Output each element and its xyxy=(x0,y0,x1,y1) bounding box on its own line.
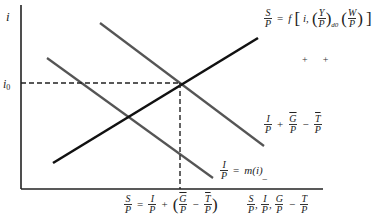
bracket-right: ] xyxy=(366,9,372,28)
num: Y xyxy=(318,8,326,18)
arg-i: i, xyxy=(303,12,309,24)
investment-sign: − xyxy=(262,174,268,185)
den: P xyxy=(247,204,255,215)
num: S xyxy=(265,8,272,18)
plus: + xyxy=(161,198,167,210)
minus: − xyxy=(303,118,309,130)
equals: = xyxy=(233,164,239,176)
den: P xyxy=(275,204,283,215)
num: S xyxy=(248,194,255,204)
num: I xyxy=(150,194,155,204)
den: P xyxy=(261,204,269,215)
y-axis-label: i xyxy=(6,10,10,23)
num: G xyxy=(288,114,297,124)
den: P xyxy=(348,18,356,29)
num: T xyxy=(204,194,212,204)
den: P xyxy=(318,18,326,29)
num: T xyxy=(300,194,308,204)
s-over-p: SP xyxy=(124,194,132,215)
i-over-p: IP xyxy=(264,114,272,135)
equals: = xyxy=(137,198,143,210)
comma: , xyxy=(255,198,258,210)
y-over-p: YP xyxy=(318,8,326,29)
den: P xyxy=(264,124,272,135)
num: I xyxy=(262,194,267,204)
paren-right: ) xyxy=(212,195,218,214)
num: G xyxy=(178,194,187,204)
den: P xyxy=(289,124,297,135)
minus: − xyxy=(289,198,295,210)
w-over-p: WP xyxy=(347,8,357,29)
i0-label-sub: 0 xyxy=(6,83,10,92)
bracket-left: [ xyxy=(294,9,300,28)
i-over-p: IP xyxy=(220,160,228,181)
den: P xyxy=(300,204,308,215)
function-f: f xyxy=(288,12,291,24)
den: P xyxy=(204,204,212,215)
g-over-p: GP xyxy=(288,114,297,135)
den: P xyxy=(264,18,272,29)
num: I xyxy=(265,114,270,124)
saving-signs: + + xyxy=(302,54,328,65)
equilibrium-x-label: SP = IP + (GP − TP) xyxy=(124,194,218,215)
i-over-p: IP xyxy=(148,194,156,215)
num: I xyxy=(221,160,226,170)
s-over-p: SP xyxy=(264,8,272,29)
subscript-d0: d0 xyxy=(331,21,338,29)
investment-plus-deficit-label: IP + GP − TP xyxy=(264,114,322,135)
num: T xyxy=(314,114,322,124)
num: S xyxy=(125,194,132,204)
den: P xyxy=(179,204,187,215)
comma: , xyxy=(269,198,272,210)
s-over-p: SP xyxy=(247,194,255,215)
g-over-p: GP xyxy=(275,194,284,215)
saving-curve xyxy=(53,38,258,163)
investment-curve xyxy=(47,58,213,178)
x-axis-label: SP, IP, GP − TP xyxy=(247,194,308,215)
den: P xyxy=(220,170,228,181)
den: P xyxy=(124,204,132,215)
i-over-p: IP xyxy=(261,194,269,215)
num: G xyxy=(275,194,284,204)
g-over-p: GP xyxy=(178,194,187,215)
plus: + xyxy=(277,118,283,130)
investment-label: IP = m(i) xyxy=(220,160,263,181)
t-over-p: TP xyxy=(314,114,322,135)
t-over-p: TP xyxy=(204,194,212,215)
paren-right: ) xyxy=(357,9,363,28)
den: P xyxy=(314,124,322,135)
equals: = xyxy=(277,12,283,24)
den: P xyxy=(148,204,156,215)
num: W xyxy=(347,8,357,18)
t-over-p: TP xyxy=(300,194,308,215)
saving-curve-label: SP = f [ i, (YP)d0 (WP) ] xyxy=(264,8,372,29)
m-of-i: m(i) xyxy=(244,164,262,176)
minus: − xyxy=(193,198,199,210)
i0-label: i0 xyxy=(3,78,10,92)
